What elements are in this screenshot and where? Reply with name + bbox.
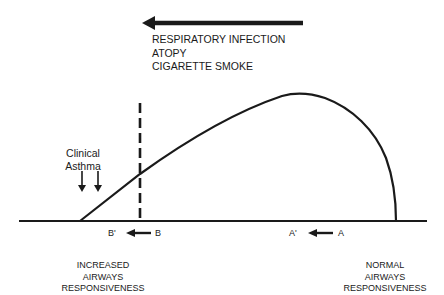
asthma-label-line: Asthma [58,160,108,173]
marker-b: B [155,229,161,238]
label-line: AIRWAYS [330,272,440,284]
marker-a-prime: A' [289,229,297,238]
label-line: RESPONSIVENESS [48,283,158,295]
risk-factors-list: RESPIRATORY INFECTION ATOPY CIGARETTE SM… [152,33,285,74]
marker-a: A [338,229,344,238]
label-line: AIRWAYS [48,272,158,284]
shift-left-arrow [142,16,303,30]
down-arrow-icon [94,171,102,192]
distribution-curve [80,94,396,221]
marker-b-prime: B' [108,229,116,238]
label-line: NORMAL [330,260,440,272]
factor-respiratory-infection: RESPIRATORY INFECTION [152,33,285,47]
a-shift-arrow [308,229,333,237]
factor-cigarette-smoke: CIGARETTE SMOKE [152,60,285,74]
normal-responsiveness-label: NORMAL AIRWAYS RESPONSIVENESS [330,260,440,295]
clinical-label-line: Clinical [58,147,108,160]
increased-responsiveness-label: INCREASED AIRWAYS RESPONSIVENESS [48,260,158,295]
label-line: INCREASED [48,260,158,272]
down-arrow-icon [78,171,86,192]
b-shift-arrow [126,229,151,237]
factor-atopy: ATOPY [152,47,285,61]
clinical-asthma-label: Clinical Asthma [58,147,108,172]
label-line: RESPONSIVENESS [330,283,440,295]
